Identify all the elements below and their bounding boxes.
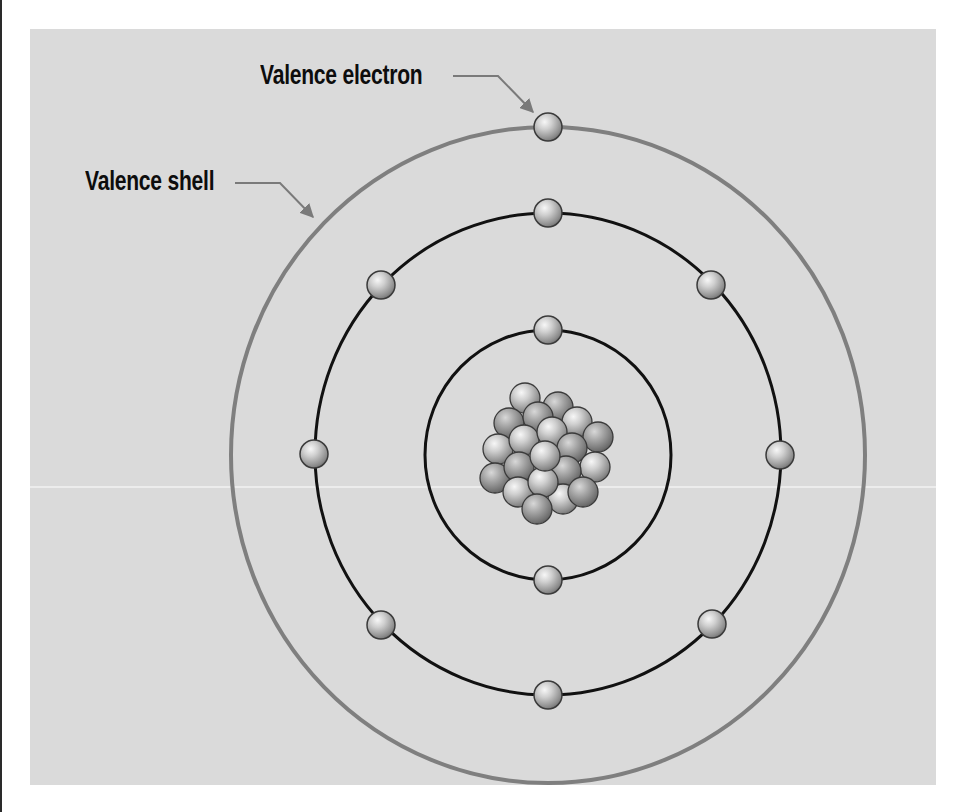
atom-diagram <box>0 0 966 812</box>
valence-electron-label: Valence electron <box>260 62 422 89</box>
middle-electron-left <box>300 440 328 468</box>
middle-electron-bottom-left <box>367 611 395 639</box>
nucleus <box>480 383 613 524</box>
valence-electron <box>534 113 562 141</box>
inner-electron-top <box>534 316 562 344</box>
middle-electron-right <box>766 441 794 469</box>
middle-electron-bottom <box>534 681 562 709</box>
valence-electron-leader <box>453 76 533 112</box>
middle-electron-bottom-right <box>698 610 726 638</box>
middle-electron-top <box>534 199 562 227</box>
valence-shell-leader <box>235 183 313 217</box>
valence-shell-label: Valence shell <box>85 168 214 195</box>
middle-electron-top-right <box>697 271 725 299</box>
inner-electron-bottom <box>534 566 562 594</box>
middle-electron-top-left <box>367 271 395 299</box>
